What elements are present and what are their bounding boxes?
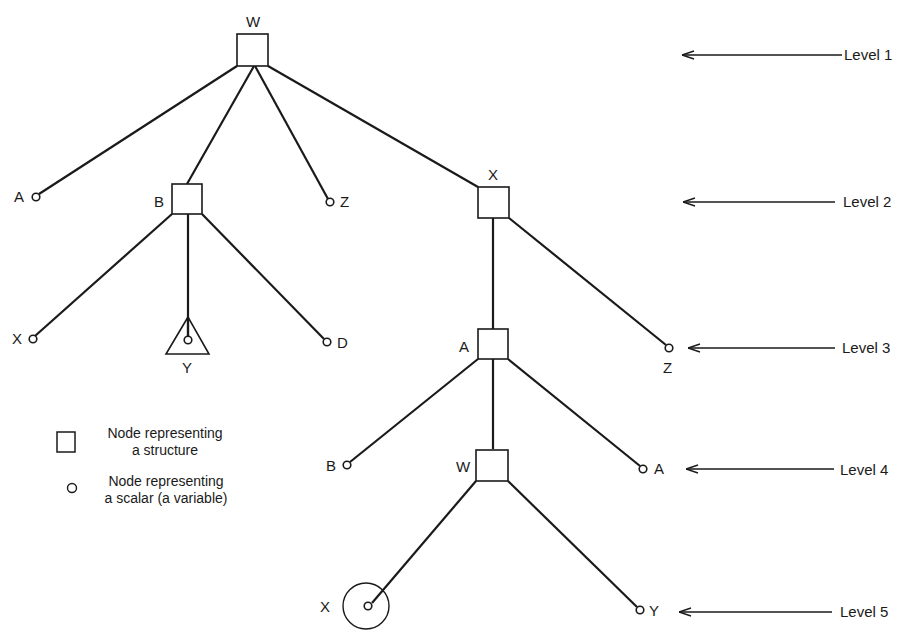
node-label-a: A — [14, 189, 24, 205]
node-label-y: Y — [182, 360, 192, 376]
scalar-node-y — [184, 336, 192, 344]
node-label-x: X — [488, 167, 498, 183]
node-label-z: Z — [340, 194, 349, 210]
node-label-x-level5: X — [320, 599, 330, 615]
scalar-node-x-level5 — [364, 602, 372, 610]
scalar-node-y-level5 — [636, 606, 644, 614]
node-label-b: B — [154, 194, 164, 210]
legend-structure-icon — [57, 432, 75, 452]
structure-node-a — [478, 329, 508, 359]
node-label-w-level4: W — [456, 459, 470, 475]
node-label-x-level3: X — [12, 331, 22, 347]
edge-w-y5 — [508, 481, 637, 607]
edge-w-x5 — [372, 481, 476, 603]
edge-a-a — [508, 359, 640, 466]
level-1-label: Level 1 — [844, 47, 892, 63]
scalar-node-d — [323, 338, 331, 346]
edge-x-z — [509, 218, 666, 345]
edge-a-b — [350, 359, 478, 462]
legend-scalar-text: Node representing a scalar (a variable) — [100, 473, 232, 507]
scalar-node-a — [32, 193, 40, 201]
legend-scalar-line2: a scalar (a variable) — [100, 490, 232, 507]
legend-structure-line2: a structure — [100, 442, 230, 459]
node-label-d: D — [337, 335, 348, 351]
edge-w-x — [268, 66, 478, 187]
node-label-a-level3: A — [459, 339, 469, 355]
level-5-label: Level 5 — [840, 604, 888, 620]
level-3-label: Level 3 — [842, 340, 890, 356]
legend-scalar-icon — [68, 484, 77, 493]
node-label-w-root: W — [246, 14, 260, 30]
scalar-node-x — [29, 335, 37, 343]
level-2-label: Level 2 — [843, 194, 891, 210]
edge-b-x — [35, 214, 172, 336]
legend-structure-line1: Node representing — [100, 425, 230, 442]
edge-w-b — [187, 66, 254, 184]
node-label-z-level3: Z — [663, 360, 672, 376]
structure-node-w-level4 — [476, 450, 508, 481]
scalar-node-z — [326, 198, 334, 206]
structure-node-w-root — [237, 34, 268, 66]
edge-w-a — [39, 66, 237, 194]
scalar-node-a-level4 — [639, 465, 647, 473]
edges — [35, 66, 666, 607]
structure-node-b — [172, 184, 202, 214]
level-4-label: Level 4 — [840, 462, 888, 478]
node-label-y-level5: Y — [649, 603, 659, 619]
edge-w-z — [255, 66, 328, 199]
scalar-node-b-level4 — [343, 461, 351, 469]
scalar-node-z-level3 — [665, 344, 673, 352]
node-label-a-level4: A — [654, 461, 664, 477]
node-label-b-level4: B — [326, 458, 336, 474]
structure-node-x — [478, 187, 509, 218]
legend-structure-text: Node representing a structure — [100, 425, 230, 459]
edge-b-d — [202, 214, 324, 339]
tree-diagram — [0, 0, 915, 634]
legend-scalar-line1: Node representing — [100, 473, 232, 490]
